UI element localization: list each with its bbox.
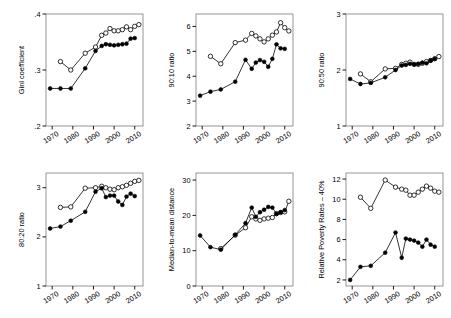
data-point-filled-circle xyxy=(258,58,262,62)
x-tick-label: 1980 xyxy=(62,129,81,145)
y-tick-label: 20 xyxy=(182,211,190,220)
data-point-filled-circle xyxy=(270,206,274,210)
series-line-open-circle xyxy=(221,201,289,248)
x-tick-label: 2000 xyxy=(103,129,122,145)
data-point-open-circle xyxy=(128,27,132,31)
data-point-open-circle xyxy=(420,187,424,191)
data-point-filled-circle xyxy=(100,44,104,48)
y-tick-label: 0 xyxy=(186,282,190,291)
data-point-filled-circle xyxy=(262,60,266,64)
gini-coefficient-plot: .2.3.419701980199020002010Gini coefficie… xyxy=(0,0,151,158)
data-point-open-circle xyxy=(83,186,87,190)
y-tick-label: 10 xyxy=(332,195,340,204)
data-point-filled-circle xyxy=(420,61,424,65)
data-point-filled-circle xyxy=(262,208,266,212)
data-point-filled-circle xyxy=(104,195,108,199)
data-point-filled-circle xyxy=(425,61,429,65)
y-tick-label: 3 xyxy=(36,183,40,192)
data-point-filled-circle xyxy=(219,248,223,252)
data-point-filled-circle xyxy=(369,264,373,268)
data-point-open-circle xyxy=(266,216,270,220)
data-point-open-circle xyxy=(262,40,266,44)
ratio-80-20-panel: 1231970198019902000201080:20 ratio xyxy=(0,159,151,318)
median-to-mean-panel: 010203019701980199020002010Median-to-mea… xyxy=(150,159,301,318)
data-point-filled-circle xyxy=(275,212,279,216)
data-point-filled-circle xyxy=(83,210,87,214)
data-point-filled-circle xyxy=(125,42,129,46)
data-point-filled-circle xyxy=(433,57,437,61)
x-tick-label: 2010 xyxy=(424,289,443,305)
data-point-open-circle xyxy=(116,29,120,33)
data-point-open-circle xyxy=(369,206,373,210)
x-tick-label: 1980 xyxy=(362,289,381,305)
data-point-filled-circle xyxy=(83,66,87,70)
data-point-open-circle xyxy=(124,183,128,187)
data-point-filled-circle xyxy=(359,82,363,86)
data-point-filled-circle xyxy=(348,77,352,81)
data-point-filled-circle xyxy=(433,245,437,249)
data-point-filled-circle xyxy=(116,43,120,47)
data-point-filled-circle xyxy=(369,81,373,85)
y-axis-label: Gini coefficient xyxy=(17,46,26,94)
x-tick-label: 1990 xyxy=(233,129,252,145)
data-point-open-circle xyxy=(69,68,73,72)
x-tick-label: 1970 xyxy=(192,289,211,305)
data-point-filled-circle xyxy=(348,278,352,282)
data-point-filled-circle xyxy=(233,80,237,84)
y-tick-label: 4 xyxy=(186,72,190,81)
data-point-filled-circle xyxy=(412,63,416,67)
x-tick-label: 2010 xyxy=(274,289,293,305)
data-point-open-circle xyxy=(93,45,97,49)
gini-coefficient-panel: .2.3.419701980199020002010Gini coefficie… xyxy=(0,0,151,158)
x-tick-label: 1980 xyxy=(212,129,231,145)
data-point-open-circle xyxy=(58,205,62,209)
data-point-filled-circle xyxy=(219,88,223,92)
data-point-open-circle xyxy=(93,186,97,190)
data-point-filled-circle xyxy=(400,256,404,260)
y-tick-label: .3 xyxy=(34,66,40,75)
data-point-filled-circle xyxy=(59,225,63,229)
data-point-open-circle xyxy=(108,26,112,30)
data-point-open-circle xyxy=(262,217,266,221)
series-line-filled-circle xyxy=(200,207,285,250)
x-tick-label: 1970 xyxy=(192,129,211,145)
y-tick-label: 2 xyxy=(336,276,340,285)
data-point-open-circle xyxy=(278,21,282,25)
data-point-filled-circle xyxy=(233,233,237,237)
data-point-open-circle xyxy=(250,31,254,35)
y-axis-label: Relative Poverty Rates – 40% xyxy=(317,180,326,279)
data-point-filled-circle xyxy=(129,192,133,196)
x-tick-label: 2000 xyxy=(103,289,122,305)
data-point-filled-circle xyxy=(108,194,112,198)
data-point-filled-circle xyxy=(116,200,120,204)
data-point-filled-circle xyxy=(429,59,433,63)
data-point-filled-circle xyxy=(283,208,287,212)
data-point-open-circle xyxy=(383,67,387,71)
data-point-open-circle xyxy=(243,226,247,230)
data-point-open-circle xyxy=(137,22,141,26)
data-point-filled-circle xyxy=(279,46,283,50)
data-point-open-circle xyxy=(274,30,278,34)
data-point-filled-circle xyxy=(412,239,416,243)
data-point-filled-circle xyxy=(270,57,274,61)
data-point-filled-circle xyxy=(416,62,420,66)
data-point-open-circle xyxy=(270,33,274,37)
data-point-open-circle xyxy=(358,72,362,76)
data-point-open-circle xyxy=(120,27,124,31)
data-point-open-circle xyxy=(100,33,104,37)
x-tick-label: 1970 xyxy=(42,129,61,145)
data-point-filled-circle xyxy=(359,265,363,269)
x-tick-label: 2000 xyxy=(253,289,272,305)
relative-poverty-plot: 2468101219701980199020002010Relative Pov… xyxy=(300,159,451,318)
data-point-open-circle xyxy=(287,29,291,33)
y-tick-label: 6 xyxy=(336,235,340,244)
data-point-filled-circle xyxy=(425,238,429,242)
y-axis-label: Median-to-mean distance xyxy=(167,188,176,271)
data-point-filled-circle xyxy=(254,215,258,219)
y-tick-label: 12 xyxy=(332,175,340,184)
x-tick-label: 1990 xyxy=(83,129,102,145)
data-point-open-circle xyxy=(412,193,416,197)
y-tick-label: 4 xyxy=(336,255,340,264)
data-point-filled-circle xyxy=(48,87,52,91)
data-point-filled-circle xyxy=(94,49,98,53)
